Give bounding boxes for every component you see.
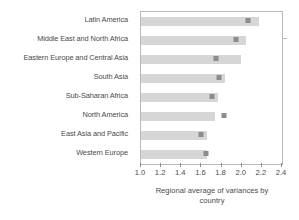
bar [141,93,218,102]
bar [141,74,225,83]
bar [141,150,207,159]
data-point-marker [209,94,214,99]
plot-area [140,11,283,165]
data-point-marker [204,151,209,156]
y-axis-label: Sub-Saharan Africa [0,91,128,100]
x-axis-tick [200,163,201,167]
y-axis-label: Western Europe [0,148,128,157]
bar [141,36,246,45]
x-axis-tick-label: 2.4 [276,168,287,177]
x-axis-tick-label: 1.4 [175,168,186,177]
x-axis-title-line2: country [128,196,296,206]
bar [141,112,215,121]
x-axis-tick [160,163,161,167]
x-axis-title: Regional average of variances by country [128,186,296,206]
bar-row [141,50,282,69]
y-axis-label: East Asia and Pacific [0,129,128,138]
bar-row [141,145,282,164]
x-axis-tick-label: 1.6 [195,168,206,177]
bar [141,17,259,26]
x-axis-tick-label: 1.2 [155,168,166,177]
bar [141,131,207,140]
bar-row [141,69,282,88]
y-axis-category-labels: Latin AmericaMiddle East and North Afric… [0,10,132,162]
x-axis-tick-label: 2.0 [235,168,246,177]
bar-row [141,126,282,145]
bar-row [141,31,282,50]
bar-row [141,12,282,31]
x-axis-tick-label: 1.8 [215,168,226,177]
y-axis-label: Eastern Europe and Central Asia [0,53,128,62]
x-axis-tick [140,163,141,167]
data-point-marker [213,56,218,61]
x-axis-tick-label: 1.0 [135,168,146,177]
x-axis-tick [241,163,242,167]
right-edge-tick [282,38,287,39]
y-axis-label: North America [0,110,128,119]
data-point-marker [245,18,250,23]
data-point-marker [199,132,204,137]
x-axis-tick [180,163,181,167]
y-axis-label: Middle East and North Africa [0,34,128,43]
bar-row [141,88,282,107]
data-point-marker [216,75,221,80]
y-axis-label: South Asia [0,72,128,81]
bar-chart: Latin AmericaMiddle East and North Afric… [0,0,299,220]
x-axis-tick [261,163,262,167]
x-axis-title-line1: Regional average of variances by [128,186,296,196]
x-axis-tick [281,163,282,167]
x-axis-tick [221,163,222,167]
x-axis: 1.01.21.41.61.82.02.22.4 [140,163,283,185]
y-axis-label: Latin America [0,15,128,24]
data-point-marker [221,113,226,118]
plot-inner [141,12,282,164]
bar [141,55,241,64]
x-axis-tick-label: 2.2 [256,168,267,177]
data-point-marker [233,37,238,42]
bar-row [141,107,282,126]
